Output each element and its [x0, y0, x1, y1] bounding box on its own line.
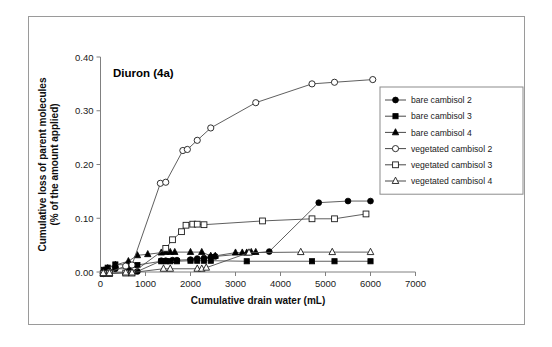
- marker-circle-open-9: [208, 125, 214, 131]
- marker-square-filled: [393, 114, 398, 119]
- legend-label: bare cambisol 3: [411, 111, 472, 121]
- marker-square-filled-9: [188, 258, 193, 263]
- marker-circle-open-3: [129, 262, 135, 268]
- marker-triangle-filled-18: [253, 248, 259, 254]
- x-tick-label-4000: 4000: [270, 278, 291, 289]
- y-axis-label-line2: (% of the amount applied): [49, 103, 60, 225]
- plot-title-group: Diuron (4a): [113, 67, 174, 79]
- figure-container: 010002000300040005000600070000.000.100.2…: [0, 0, 552, 347]
- y-tick-label-0.40: 0.40: [75, 52, 94, 63]
- legend-label: vegetated cambisol 4: [411, 176, 492, 186]
- marker-circle-open-10: [253, 100, 259, 106]
- legend-label: vegetated cambisol 2: [411, 144, 492, 154]
- marker-square-open: [393, 162, 399, 168]
- y-tick-label-0.30: 0.30: [75, 105, 94, 116]
- marker-circle-open-8: [194, 137, 200, 143]
- x-tick-label-6000: 6000: [360, 278, 381, 289]
- marker-square-filled-12: [208, 258, 213, 263]
- legend-group: bare cambisol 2bare cambisol 3bare cambi…: [380, 87, 523, 194]
- x-axis-label: Cumulative drain water (mL): [191, 295, 325, 306]
- marker-square-open-7: [183, 222, 189, 228]
- marker-triangle-open-12: [367, 248, 374, 254]
- y-tick-label-0.00: 0.00: [75, 267, 94, 278]
- marker-square-filled-4: [135, 262, 140, 267]
- marker-circle-open-13: [370, 76, 376, 82]
- y-tick-label-0.10: 0.10: [75, 213, 94, 224]
- series-line-3: [103, 80, 373, 274]
- marker-square-filled-16: [368, 259, 373, 264]
- marker-circle-filled-14: [266, 249, 272, 255]
- marker-square-open-12: [309, 216, 315, 222]
- marker-circle-open-12: [331, 79, 337, 85]
- x-tick-label-2000: 2000: [180, 278, 201, 289]
- marker-triangle-open-10: [297, 248, 304, 254]
- marker-square-filled-7: [168, 259, 173, 264]
- marker-square-filled-8: [174, 259, 179, 264]
- x-tick-label-0: 0: [98, 278, 103, 289]
- marker-circle-open: [392, 146, 398, 152]
- marker-circle-open-5: [163, 179, 169, 185]
- chart-canvas: 010002000300040005000600070000.000.100.2…: [0, 0, 552, 347]
- marker-square-open-14: [363, 211, 369, 217]
- marker-circle-filled-16: [345, 198, 351, 204]
- x-tick-label-7000: 7000: [405, 278, 426, 289]
- marker-triangle-open-5: [167, 265, 174, 271]
- marker-square-open-6: [179, 229, 185, 235]
- marker-triangle-open-11: [329, 248, 336, 254]
- x-tick-label-5000: 5000: [315, 278, 336, 289]
- x-tick-label-1000: 1000: [135, 278, 156, 289]
- marker-triangle-open-4: [160, 265, 167, 271]
- marker-triangle-filled-11: [199, 248, 205, 254]
- plot-title: Diuron (4a): [113, 67, 174, 79]
- data-series-group: [100, 76, 376, 276]
- marker-square-filled-10: [195, 258, 200, 263]
- series-vegetated-cambisol-2: [100, 76, 376, 276]
- marker-square-filled-13: [244, 259, 249, 264]
- marker-square-filled-14: [309, 259, 314, 264]
- marker-circle-open-11: [309, 81, 315, 87]
- marker-circle-filled-15: [316, 200, 322, 206]
- marker-square-filled-15: [332, 259, 337, 264]
- marker-triangle-filled-10: [187, 248, 193, 254]
- marker-triangle-filled-9: [172, 248, 178, 254]
- marker-square-open-4: [163, 245, 169, 251]
- series-line-4: [103, 214, 366, 274]
- y-axis-label-line1: Cumulative loss of parent molecules: [37, 77, 48, 251]
- legend-label: bare cambisol 2: [411, 95, 472, 105]
- legend-label: vegetated cambisol 3: [411, 160, 492, 170]
- marker-square-open-9: [194, 221, 200, 227]
- marker-square-filled-11: [201, 258, 206, 263]
- series-vegetated-cambisol-3: [100, 211, 369, 276]
- y-tick-label-0.20: 0.20: [75, 159, 94, 170]
- marker-square-open-5: [170, 237, 176, 243]
- marker-square-open-13: [332, 216, 338, 222]
- marker-square-open-10: [201, 222, 207, 228]
- marker-triangle-filled-14: [232, 249, 238, 255]
- legend-label: bare cambisol 4: [411, 128, 472, 138]
- marker-circle-open-7: [184, 146, 190, 152]
- marker-square-open-11: [260, 218, 266, 224]
- marker-circle-filled: [393, 97, 399, 103]
- marker-circle-filled-17: [368, 198, 374, 204]
- x-tick-label-3000: 3000: [225, 278, 246, 289]
- axis-spines: [101, 57, 416, 272]
